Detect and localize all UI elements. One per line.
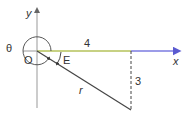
x-axis-label: x: [172, 55, 179, 67]
radius-line: [37, 51, 131, 110]
vertical-length-label: 3: [135, 75, 141, 87]
y-axis-label: y: [25, 7, 33, 19]
radius-label: r: [79, 84, 84, 96]
horizontal-length-label: 4: [84, 37, 90, 49]
theta-label: θ: [6, 42, 12, 54]
angle-e-label: E: [63, 54, 70, 66]
polar-diagram: y x θ O E 4 3 r: [0, 0, 191, 120]
angle-e-arc: [57, 52, 61, 64]
origin-label: O: [24, 54, 33, 66]
